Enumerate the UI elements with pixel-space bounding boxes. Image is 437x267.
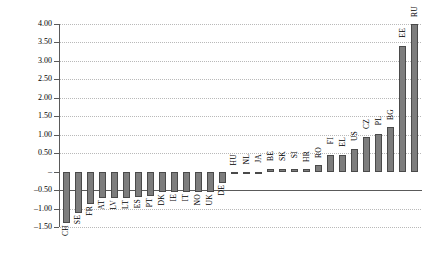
bar-hr	[303, 169, 310, 171]
bar-se	[75, 172, 82, 214]
category-label-pt: PT	[146, 198, 154, 207]
bar-no	[195, 172, 202, 192]
category-label-ro: RO	[315, 147, 323, 158]
category-label-lv: LV	[110, 200, 118, 210]
y-axis-tick-label: 3.50	[12, 38, 52, 46]
bar-es	[135, 172, 142, 198]
bar-lv	[111, 172, 118, 199]
y-axis-tick	[54, 135, 59, 136]
category-label-hu: HU	[230, 154, 238, 165]
y-axis-tick	[54, 153, 59, 154]
y-axis-tick-label: 2.00	[12, 94, 52, 102]
category-label-ch: CH	[62, 225, 70, 236]
bar-at	[99, 172, 106, 199]
y-axis-tick-label: –0.50	[12, 186, 52, 194]
y-axis-tick	[54, 116, 59, 117]
y-axis-tick-label: –1.00	[12, 205, 52, 213]
category-label-bg: BG	[387, 109, 395, 120]
category-label-el: EL	[339, 137, 347, 147]
category-label-lt: LT	[122, 200, 130, 209]
bar-si	[291, 169, 298, 171]
bar-ro	[315, 165, 322, 172]
y-axis-tick-label: 1.50	[12, 112, 52, 120]
bar-bg	[387, 127, 394, 171]
bar-series: CHSEFRATLVLTESPTDKIEITNOUKDEHUNLJABESKSI…	[60, 24, 421, 227]
category-label-dk: DK	[158, 194, 166, 205]
bar-ch	[63, 172, 70, 223]
y-axis-tick-label: –1.50	[12, 223, 52, 231]
bar-nl	[243, 172, 250, 174]
bar-us	[351, 149, 358, 172]
y-axis-tick-label: 2.50	[12, 75, 52, 83]
category-label-us: US	[351, 131, 359, 141]
category-label-it: IT	[182, 194, 190, 202]
category-label-ja: JA	[255, 154, 263, 163]
bar-hu	[231, 172, 238, 174]
category-label-cz: CZ	[363, 119, 371, 129]
bar-pt	[147, 172, 154, 196]
bar-fr	[87, 172, 94, 204]
category-label-ee: EE	[399, 28, 407, 38]
category-label-ru: RU	[411, 6, 419, 17]
bar-ie	[171, 172, 178, 192]
category-label-ie: IE	[170, 194, 178, 202]
category-label-nl: NL	[243, 154, 251, 165]
chart-figure: Deviation from mean 4.003.503.002.502.00…	[0, 0, 437, 267]
bar-fi	[327, 155, 334, 172]
category-label-hr: HR	[303, 151, 311, 162]
bar-cz	[363, 137, 370, 171]
bar-ru	[411, 24, 418, 172]
bar-el	[339, 155, 346, 172]
y-axis-tick	[54, 209, 59, 210]
bar-dk	[159, 172, 166, 193]
category-label-uk: UK	[206, 194, 214, 205]
y-axis-tick	[54, 24, 59, 25]
bar-pl	[375, 134, 382, 172]
y-axis-tick-label: 0.50	[12, 149, 52, 157]
category-label-de: DE	[218, 185, 226, 196]
bar-uk	[207, 172, 214, 192]
y-axis-tick	[54, 172, 59, 173]
bar-de	[219, 172, 226, 183]
bar-it	[183, 172, 190, 192]
category-label-pl: PL	[375, 116, 383, 125]
bar-ja	[255, 172, 262, 174]
category-label-fr: FR	[86, 206, 94, 216]
category-label-se: SE	[74, 215, 82, 224]
y-axis-tick-label: 4.00	[12, 20, 52, 28]
y-axis-tick-label: 1.00	[12, 131, 52, 139]
y-axis-tick	[54, 61, 59, 62]
bar-sk	[279, 169, 286, 172]
y-axis-tick	[54, 227, 59, 228]
y-axis-tick-label: –	[12, 168, 52, 176]
category-label-fi: FI	[327, 137, 335, 144]
bar-lt	[123, 172, 130, 199]
y-axis-tick	[54, 42, 59, 43]
gridline	[60, 227, 421, 228]
category-label-no: NO	[194, 194, 202, 205]
bar-ee	[399, 46, 406, 171]
category-label-at: AT	[98, 200, 106, 210]
y-axis-tick	[54, 79, 59, 80]
y-axis-tick-label: 3.00	[12, 57, 52, 65]
bar-be	[267, 169, 274, 172]
y-axis-tick	[54, 98, 59, 99]
category-label-si: SI	[291, 151, 299, 158]
category-label-sk: SK	[279, 151, 287, 161]
category-label-es: ES	[134, 199, 142, 208]
category-label-be: BE	[267, 151, 275, 161]
